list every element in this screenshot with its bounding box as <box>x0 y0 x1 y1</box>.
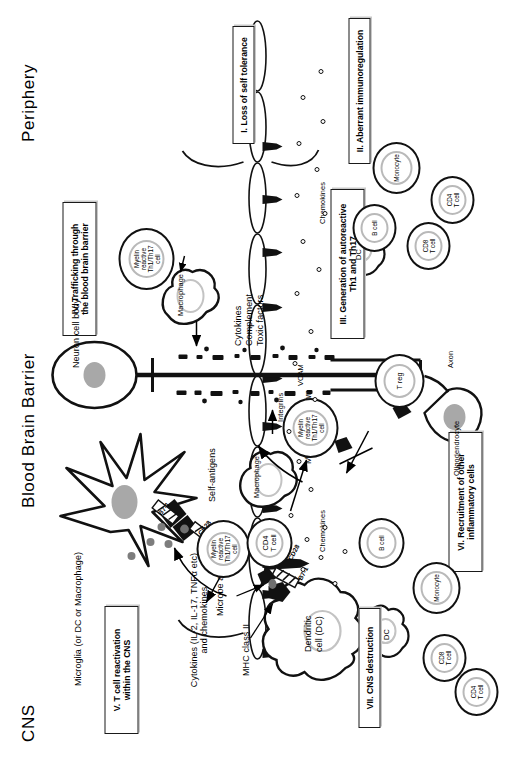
label-neuron-cell-body: Neuron cell body <box>70 299 80 368</box>
cell-myelin-reactive-th1-th17-cns[interactable]: Myelin reactive Th1/Th17 cell <box>196 520 250 578</box>
self-antigen-dots <box>127 512 180 560</box>
cell-label: Myelin reactive Th1/Th17 cell <box>296 415 324 442</box>
cell-label: CD8 T cell <box>437 651 451 666</box>
chemokine-dot <box>342 549 347 554</box>
chemokine-dot <box>300 95 305 100</box>
chemokine-dot <box>308 329 313 334</box>
chemokine-dot <box>296 141 301 146</box>
step-box-i[interactable]: I. Loss of self tolerance <box>232 26 254 144</box>
chemokine-dot <box>294 291 299 296</box>
chemokine-dot <box>300 567 305 572</box>
cell-myelin-reactive-th1-th17-bbb[interactable]: Myelin reactive Th1/Th17 cell <box>118 228 174 290</box>
macrophage-lower-shape <box>162 270 218 324</box>
chemokine-dot <box>322 525 327 530</box>
compartment-label-periphery: Periphery <box>18 64 37 142</box>
chemokine-dot <box>286 429 291 434</box>
multiple-sclerosis-pathogenesis-figure: CNS Blood Brain Barrier Periphery I. Los… <box>0 0 517 764</box>
cell-pool-periphery-monocyte[interactable]: Monocyte <box>372 142 420 194</box>
mhc-pointer <box>250 604 272 638</box>
chemokine-dot <box>322 211 327 216</box>
monocyte-to-macrophage-arrow <box>180 256 184 272</box>
cell-cd4-t-cell-activated[interactable]: CD4 T cell <box>246 518 292 568</box>
cell-label: Myelin reactive Th1/Th17 cell <box>209 536 237 563</box>
activation-arrow-periphery <box>290 460 306 511</box>
compartment-label-bbb: Blood Brain Barrier <box>18 353 37 508</box>
microbe-antigen-dot <box>268 579 276 589</box>
step-box-vii[interactable]: VII. CNS destruction <box>358 608 380 728</box>
cell-label: CD4 T cell <box>469 685 483 700</box>
cell-label: Monocyte <box>432 574 439 601</box>
chemokine-dot <box>304 537 309 542</box>
chemokine-dot <box>292 361 297 366</box>
label-macrophage-lower: Macrophage <box>176 274 184 316</box>
cell-myelin-reactive-th1-th17-periphery[interactable]: Myelin reactive Th1/Th17 cell <box>282 398 338 458</box>
step-box-ii[interactable]: II. Aberrant immunoregulation <box>348 18 370 164</box>
label-macrophage-upper: Macrophage <box>252 456 260 498</box>
cell-pool-periphery-cd4-t-cell[interactable]: CD4 T cell <box>430 176 474 224</box>
label-effector-molecules: Cytokines Complement Toxic factors <box>232 294 264 346</box>
presented-self-antigen <box>180 525 189 534</box>
chemokine-dot <box>320 119 325 124</box>
chemokine-dot <box>332 581 337 586</box>
cell-label: Myelin reactive Th1/Th17 cell <box>132 246 160 273</box>
cell-label: CD8 T cell <box>421 239 435 254</box>
label-self-antigens: Self-antigens <box>206 448 216 502</box>
cell-label: CD4 T cell <box>261 534 278 552</box>
neuron-soma <box>52 342 136 408</box>
treg-inhibition <box>339 431 372 473</box>
cell-label: T reg <box>395 372 403 389</box>
mhc-class-ii-peg <box>268 582 290 602</box>
cell-label: B cell <box>370 220 377 235</box>
cell-label: CD4 T cell <box>445 193 459 208</box>
chemokine-dot <box>288 513 293 518</box>
label-axon: Axon <box>446 351 454 368</box>
macrophage-upper-shape <box>240 452 296 507</box>
chemokine-dot <box>294 193 299 198</box>
chemokine-dot <box>300 239 305 244</box>
label-vcam: VCAM <box>296 364 304 386</box>
cell-pool-cns-cd4-t-cell[interactable]: CD4 T cell <box>454 668 498 716</box>
cell-pool-periphery-b-cell[interactable]: B cell <box>352 204 396 252</box>
cell-pool-cns-monocyte[interactable]: Monocyte <box>412 562 460 614</box>
label-oligodendrocyte: Oligodendrocyte <box>452 421 460 476</box>
oligodendrocyte-process <box>424 376 448 392</box>
label-mhc-class-ii: MHC class II <box>240 624 250 676</box>
label-cns-b7-1: B7-1 <box>156 501 170 517</box>
label-microglia: Microglia (or DC or Macrophage) <box>72 552 82 686</box>
microglia-shape <box>60 434 196 566</box>
step-box-v[interactable]: V. T cell reactivation within the CNS <box>104 606 138 734</box>
cell-label: Monocyte <box>392 154 399 181</box>
cell-pool-cns-b-cell[interactable]: B cell <box>358 518 404 568</box>
chemokine-dot <box>308 487 313 492</box>
chemokine-dot <box>314 167 319 172</box>
label-chemokines-bbb: Chemokines <box>318 182 326 224</box>
chemokine-dot <box>318 555 323 560</box>
chemokine-dot <box>296 459 301 464</box>
neuron-nucleus <box>83 362 105 388</box>
antigen-pointer <box>236 585 263 596</box>
label-periphery-dc: DC <box>354 249 362 260</box>
cell-pool-periphery-cd8-t-cell[interactable]: CD8 T cell <box>406 222 450 270</box>
compartment-label-cns: CNS <box>18 704 37 742</box>
label-dendritic-cell: Dendritic cell (DC) <box>302 616 324 652</box>
chemokine-dot <box>318 69 323 74</box>
cell-label: B cell <box>377 535 384 550</box>
chemokine-dot <box>316 267 321 272</box>
cell-t-reg[interactable]: T reg <box>374 354 424 408</box>
label-cns-dc: DC <box>382 629 390 640</box>
b7-1-stripe <box>271 567 298 587</box>
chemokine-dot <box>312 397 317 402</box>
microglia-nucleus <box>111 485 137 519</box>
label-chemokines-cns: Chemokines <box>318 510 326 552</box>
